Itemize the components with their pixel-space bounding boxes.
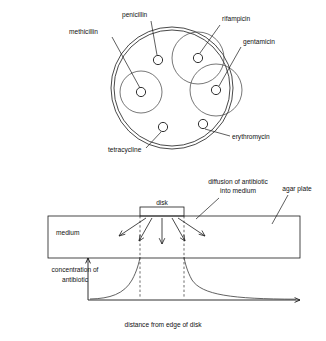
antibiotic-disk-gentamicin [211,85,220,94]
disk-cross-section [140,207,184,216]
label-gentamicin: gentamicin [243,38,275,46]
label-agar-plate: agar plate [282,185,312,193]
antibiotic-disk-penicillin [153,55,162,64]
label-methicillin: methicillin [69,28,98,35]
label-diffusion-line1: diffusion of antibiotic [208,178,268,185]
label-erythromycin: erythromycin [232,133,270,141]
antibiotic-disk-diffusion-figure: penicillin methicillin rifampicin gentam… [0,0,326,341]
label-diffusion-line2: into medium [220,187,256,194]
label-penicillin: penicillin [122,11,148,19]
petri-dish-group: penicillin methicillin rifampicin gentam… [69,11,275,154]
label-y-axis-line1: concentration of [52,266,99,273]
diffusion-arrow-5 [178,218,205,236]
label-rifampicin: rifampicin [222,15,251,23]
leader-agar-plate [272,195,288,224]
concentration-curve-right [184,257,296,299]
antibiotic-disk-methicillin [136,87,145,96]
label-x-axis: distance from edge of disk [125,321,203,329]
antibiotic-disk-erythromycin [198,119,207,128]
leader-penicillin [151,21,157,55]
label-medium: medium [56,229,80,236]
label-y-axis-line2: antibiotic [62,276,89,283]
figure-canvas: penicillin methicillin rifampicin gentam… [0,0,326,341]
label-disk: disk [156,199,168,206]
antibiotic-disk-tetracycline [158,122,167,131]
label-tetracycline: tetracycline [108,146,142,154]
antibiotic-disk-rifampicin [193,53,202,62]
concentration-curve-left [90,257,140,299]
concentration-graph-group [86,257,300,302]
leader-tetracycline [146,132,161,148]
diffusion-arrow-1 [119,218,146,236]
diffusion-arrows [119,218,205,244]
